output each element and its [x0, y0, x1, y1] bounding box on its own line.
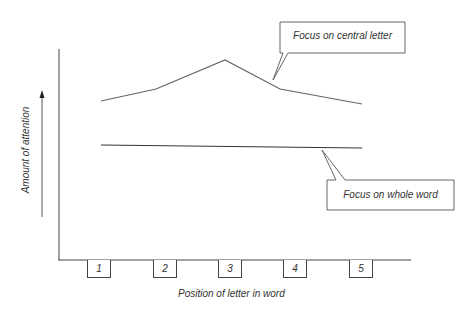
series-central-letter: [101, 60, 362, 104]
x-axis-label: Position of letter in word: [178, 288, 285, 299]
x-tick-3: 3: [218, 260, 242, 278]
callout-whole-label: Focus on whole word: [327, 189, 454, 200]
x-tick-2: 2: [153, 260, 177, 278]
arrow-up-icon: [40, 90, 45, 98]
x-tick-5: 5: [349, 260, 373, 278]
x-tick-1: 1: [87, 260, 111, 278]
series-whole-word: [101, 145, 362, 148]
callout-whole-word: [322, 150, 454, 210]
callout-central-label: Focus on central letter: [280, 30, 405, 41]
x-tick-4: 4: [283, 260, 307, 278]
y-axis-label: Amount of attention: [20, 107, 31, 194]
